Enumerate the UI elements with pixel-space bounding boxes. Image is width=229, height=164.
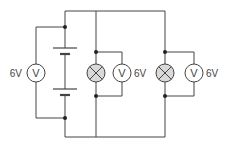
voltmeter-symbol: V: [118, 67, 126, 79]
circuit-diagram: V 6V V 6V V 6V: [0, 0, 229, 164]
voltmeter-reading: 6V: [206, 68, 219, 79]
voltmeter-reading: 6V: [134, 68, 147, 79]
battery-voltmeter: V 6V: [10, 64, 45, 82]
lamp1-voltmeter: V 6V: [113, 64, 147, 82]
lamp2-voltmeter: V 6V: [185, 64, 219, 82]
voltmeter-reading: 6V: [10, 68, 23, 79]
voltmeter-symbol: V: [32, 67, 40, 79]
voltmeter-symbol: V: [190, 67, 198, 79]
battery-cell-2: [53, 89, 77, 95]
battery-cell-1: [53, 48, 77, 54]
lamp-icon: [87, 64, 105, 82]
lamp-icon: [156, 64, 174, 82]
